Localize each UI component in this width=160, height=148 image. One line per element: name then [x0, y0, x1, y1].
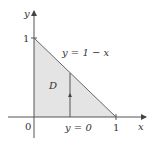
y-axis-label: y: [23, 8, 30, 19]
x-axis-label: x: [138, 121, 144, 132]
y-tick-label: 1: [23, 33, 29, 44]
curve-label: y = 1 − x: [61, 47, 109, 58]
x-tick-label: 1: [113, 122, 119, 133]
bottom-label: y = 0: [64, 122, 92, 133]
origin-label: 0: [25, 121, 31, 132]
region-label: D: [48, 80, 57, 91]
region-diagram: y x 1 0 1 y = 1 − x D y = 0: [0, 0, 160, 148]
